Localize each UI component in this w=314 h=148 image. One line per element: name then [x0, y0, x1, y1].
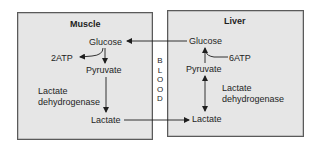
muscle-atp-arrow — [80, 48, 103, 57]
liver-atp-arrow — [206, 52, 228, 57]
arrows-layer — [0, 0, 314, 148]
